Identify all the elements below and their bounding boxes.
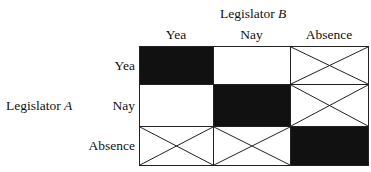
cell-absence-yea-crossed [139, 126, 214, 166]
cell-yea-nay-empty [213, 46, 291, 85]
title-b-text: Legislator [220, 6, 275, 21]
cell-absence-absence-filled [290, 126, 369, 166]
cross-icon [140, 127, 213, 165]
legislator-b-title: Legislator B [220, 7, 286, 21]
cell-nay-absence-crossed [290, 84, 369, 127]
row-header-absence: Absence [75, 139, 135, 153]
title-a-var: A [64, 98, 72, 113]
cross-icon [291, 47, 368, 84]
row-header-nay: Nay [75, 99, 135, 113]
row-header-yea: Yea [75, 59, 135, 73]
cell-nay-yea-empty [139, 84, 214, 127]
column-header-yea: Yea [139, 28, 213, 42]
vote-matrix [139, 46, 368, 165]
legislator-a-title: Legislator A [6, 99, 72, 113]
cell-yea-absence-crossed [290, 46, 369, 85]
cell-nay-nay-filled [213, 84, 291, 127]
cross-icon [214, 127, 290, 165]
title-b-var: B [278, 6, 286, 21]
title-a-text: Legislator [6, 98, 61, 113]
column-header-absence: Absence [290, 28, 368, 42]
cell-yea-yea-filled [139, 46, 214, 85]
column-header-nay: Nay [213, 28, 290, 42]
cell-absence-nay-crossed [213, 126, 291, 166]
cross-icon [291, 85, 368, 126]
